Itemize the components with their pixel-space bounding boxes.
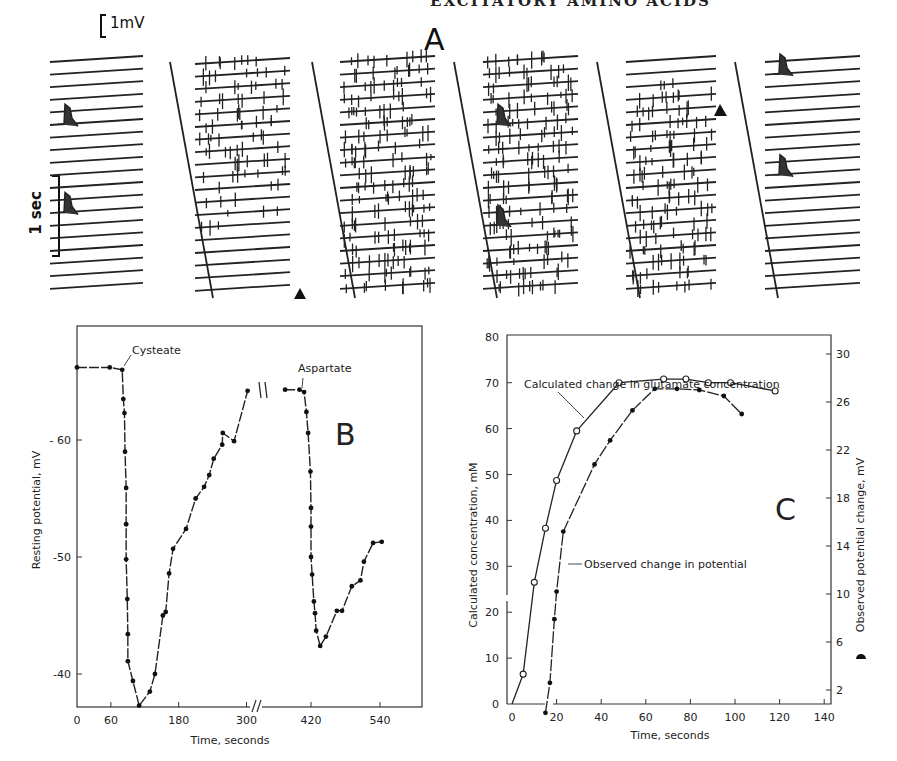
y-tick-label: -40 <box>53 668 71 681</box>
x-axis-title: Time, seconds <box>630 729 710 742</box>
data-point <box>124 557 129 562</box>
x-tick-label: 0 <box>74 714 81 727</box>
trace-block-1 <box>50 56 143 289</box>
data-point <box>297 387 302 392</box>
data-point <box>75 365 80 370</box>
data-point <box>309 555 314 560</box>
observed-series-line <box>545 389 741 713</box>
data-point <box>349 584 354 589</box>
data-point <box>313 611 318 616</box>
data-point <box>309 505 314 510</box>
data-point <box>314 628 319 633</box>
y-left-tick-label: 20 <box>485 606 499 619</box>
data-point <box>245 388 250 393</box>
y-left-tick-label: 80 <box>485 331 499 344</box>
data-point <box>318 644 323 649</box>
application-start-marker <box>294 288 306 299</box>
filled-data-point <box>739 412 744 417</box>
voltage-scale-label: 1mV <box>110 14 144 32</box>
filled-data-point <box>592 462 597 467</box>
x-tick-label: 300 <box>236 714 257 727</box>
label-observed: Observed change in potential <box>584 558 747 571</box>
y-axis-title: Resting potential, mV <box>30 450 43 569</box>
data-point <box>163 610 168 615</box>
x-tick-label: 40 <box>594 711 608 724</box>
label-calculated: Calculated change in glutamate concentra… <box>524 378 780 391</box>
filled-data-point <box>721 394 726 399</box>
trace-block-4 <box>483 51 578 297</box>
x-tick-label: 540 <box>370 714 391 727</box>
x-axis-title: Time, seconds <box>190 734 270 747</box>
data-point <box>193 496 198 501</box>
data-point <box>207 473 212 478</box>
y-left-tick-label: 10 <box>485 652 499 665</box>
data-point <box>379 539 384 544</box>
x-tick-label: 180 <box>168 714 189 727</box>
panel-a-traces <box>0 40 897 310</box>
x-tick-label: 80 <box>683 711 697 724</box>
open-data-point <box>574 428 580 434</box>
x-tick-label: 60 <box>104 714 118 727</box>
y-left-tick-label: 40 <box>485 514 499 527</box>
data-point <box>302 390 307 395</box>
data-point <box>123 449 128 454</box>
data-point <box>125 597 130 602</box>
data-point <box>120 367 125 372</box>
y-right-tick-label: 30 <box>836 348 850 361</box>
filled-data-point <box>554 589 559 594</box>
data-point <box>147 689 152 694</box>
y-tick-label: - 60 <box>50 434 71 447</box>
data-point <box>153 672 158 677</box>
y-left-axis-title: Calculated concentration, mM <box>467 462 480 627</box>
data-point <box>107 365 112 370</box>
data-point <box>124 522 129 527</box>
y-right-tick-label: 10 <box>836 588 850 601</box>
data-point <box>171 546 176 551</box>
trace-block-2 <box>195 55 306 299</box>
data-point <box>184 527 189 532</box>
plot-frame-b <box>77 326 422 707</box>
x-tick-label: 140 <box>814 711 835 724</box>
y-left-tick-label: 70 <box>485 377 499 390</box>
half-filled-circle-legend-icon <box>856 654 866 659</box>
filled-data-point <box>548 680 553 685</box>
series-line-0 <box>77 367 248 705</box>
voltage-scale-bar <box>100 14 106 38</box>
filled-data-point <box>552 617 557 622</box>
data-point <box>283 387 288 392</box>
data-point <box>308 469 313 474</box>
y-right-tick-label: 22 <box>836 444 850 457</box>
trace-block-3 <box>340 49 435 294</box>
panel-b-letter: B <box>335 417 356 452</box>
filled-data-point <box>630 408 635 413</box>
data-point <box>125 659 130 664</box>
data-point <box>362 559 367 564</box>
data-point <box>167 571 172 576</box>
data-point <box>371 541 376 546</box>
data-point <box>122 411 127 416</box>
y-left-tick-label: 0 <box>492 698 499 711</box>
y-right-axis-title: Observed potential change, mV <box>854 457 867 632</box>
filled-data-point <box>561 529 566 534</box>
panel-b-chart: - 60-50-40060180300420540Time, secondsRe… <box>0 310 460 761</box>
data-point <box>220 431 225 436</box>
trace-block-6 <box>765 54 860 289</box>
data-point <box>304 410 309 415</box>
open-data-point <box>554 477 560 483</box>
y-right-tick-label: 18 <box>836 492 850 505</box>
data-point <box>137 703 142 708</box>
annotation-aspartate: Aspartate <box>298 362 352 375</box>
open-data-point <box>542 525 548 531</box>
y-right-tick-label: 6 <box>836 636 843 649</box>
y-right-tick-label: 26 <box>836 396 850 409</box>
x-tick-label: 420 <box>301 714 322 727</box>
x-tick-label: 0 <box>509 711 516 724</box>
data-point <box>124 486 129 491</box>
panel-c-letter: C <box>775 492 796 527</box>
data-point <box>334 608 339 613</box>
y-right-tick-label: 2 <box>836 684 843 697</box>
y-tick-label: -50 <box>53 551 71 564</box>
data-point <box>232 439 237 444</box>
data-point <box>340 608 345 613</box>
x-tick-label: 20 <box>550 711 564 724</box>
